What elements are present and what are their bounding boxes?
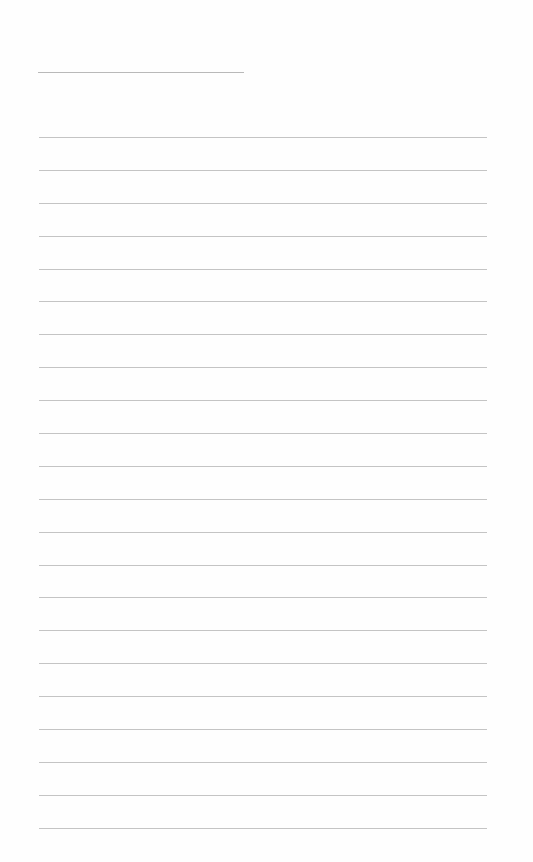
ruled-lines	[39, 137, 487, 861]
ruled-line	[39, 466, 487, 499]
ruled-line	[39, 696, 487, 729]
ruled-line	[39, 301, 487, 334]
ruled-line	[39, 499, 487, 532]
header-line	[38, 72, 244, 73]
ruled-line	[39, 729, 487, 762]
ruled-line	[39, 203, 487, 236]
ruled-line	[39, 762, 487, 795]
ruled-line	[39, 532, 487, 565]
ruled-line	[39, 269, 487, 302]
ruled-line	[39, 565, 487, 598]
ruled-line	[39, 236, 487, 269]
ruled-line	[39, 795, 487, 828]
ruled-line	[39, 367, 487, 400]
ruled-line	[39, 663, 487, 696]
ruled-line	[39, 137, 487, 170]
ruled-line	[39, 400, 487, 433]
ruled-line	[39, 828, 487, 861]
ruled-line	[39, 433, 487, 466]
ruled-line	[39, 170, 487, 203]
ruled-line	[39, 630, 487, 663]
ruled-line	[39, 334, 487, 367]
lined-paper-page	[0, 0, 533, 862]
ruled-line	[39, 597, 487, 630]
